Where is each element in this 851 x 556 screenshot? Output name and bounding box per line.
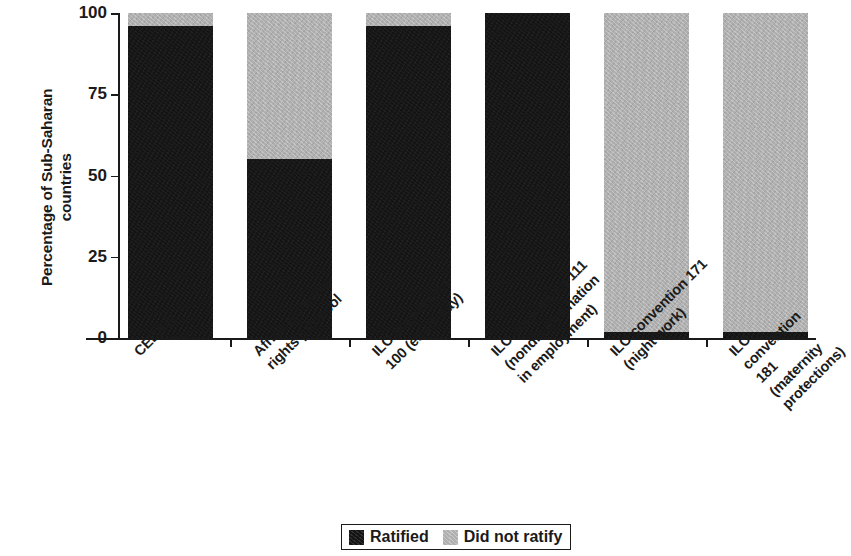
y-tick-label: 50 <box>88 166 107 186</box>
black-swatch-icon <box>349 530 364 545</box>
y-axis-line <box>118 13 120 338</box>
y-tick-mark <box>111 13 118 15</box>
y-tick-label: 25 <box>88 247 107 267</box>
legend-label-did-not-ratify: Did not ratify <box>464 528 563 546</box>
bar-segment-did-not-ratify <box>128 13 213 26</box>
bar-1 <box>128 13 213 338</box>
y-tick-mark <box>111 338 118 340</box>
chart-legend: Ratified Did not ratify <box>341 524 571 550</box>
y-tick-label: 75 <box>88 84 107 104</box>
x-tick-mark <box>230 338 232 347</box>
x-tick-mark <box>468 338 470 347</box>
y-tick-mark <box>111 94 118 96</box>
y-tick-mark <box>111 176 118 178</box>
bar-segment-ratified <box>128 26 213 338</box>
y-axis-title: Percentage of Sub-Saharan countries <box>37 37 76 337</box>
x-tick-mark <box>587 338 589 347</box>
x-tick-mark <box>349 338 351 347</box>
legend-label-ratified: Ratified <box>370 528 429 546</box>
bar-segment-did-not-ratify <box>247 13 332 159</box>
legend-item-ratified: Ratified <box>349 528 429 546</box>
y-tick-label: 0 <box>98 328 107 348</box>
legend-item-did-not-ratify: Did not ratify <box>443 528 563 546</box>
y-tick-mark <box>111 257 118 259</box>
gray-swatch-icon <box>443 530 458 545</box>
x-tick-mark <box>706 338 708 347</box>
y-tick-label: 100 <box>79 3 107 23</box>
bar-segment-did-not-ratify <box>366 13 451 26</box>
